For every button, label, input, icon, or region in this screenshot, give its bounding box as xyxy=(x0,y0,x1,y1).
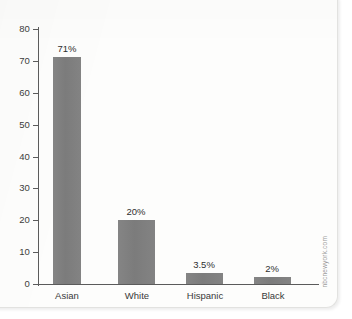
y-tick-label: 70 xyxy=(4,56,30,66)
bar-value-asian: 71% xyxy=(43,44,91,54)
y-tick-label: 40 xyxy=(4,152,30,162)
bar-value-hispanic: 3.5% xyxy=(180,260,228,270)
y-tick-label: 50 xyxy=(4,120,30,130)
bar-chart: 0 10 20 30 40 50 60 70 xyxy=(0,0,352,319)
watermark-text: nbcnewyork.com xyxy=(322,236,329,288)
y-tick-label: 60 xyxy=(4,88,30,98)
x-label-hispanic: Hispanic xyxy=(178,291,232,301)
bar-black[interactable] xyxy=(254,277,291,284)
bar-value-white: 20% xyxy=(112,207,160,217)
x-axis-line xyxy=(38,284,319,285)
bar-hispanic[interactable] xyxy=(186,273,223,284)
y-tick-label: 10 xyxy=(4,247,30,257)
y-tick-label: 0 xyxy=(4,279,30,289)
y-tick-label: 20 xyxy=(4,215,30,225)
y-tick-label: 30 xyxy=(4,183,30,193)
bar-value-black: 2% xyxy=(248,264,296,274)
bar-white[interactable] xyxy=(118,220,155,284)
x-label-white: White xyxy=(111,291,163,301)
x-label-black: Black xyxy=(247,291,299,301)
bar-asian[interactable] xyxy=(53,57,81,284)
screenshot-root: 0 10 20 30 40 50 60 70 xyxy=(0,0,352,319)
x-label-asian: Asian xyxy=(41,291,93,301)
y-tick-label: 80 xyxy=(4,24,30,34)
